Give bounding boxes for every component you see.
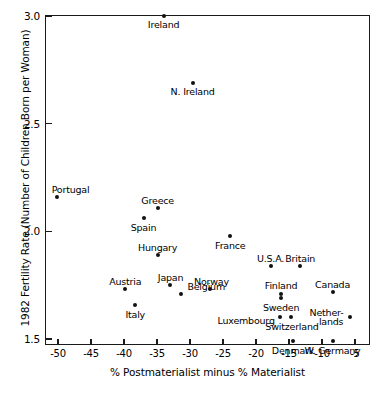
x-tick--10 <box>321 339 322 345</box>
data-point-label: Japan <box>158 273 184 283</box>
data-point-marker <box>331 290 335 294</box>
data-point-marker <box>191 81 195 85</box>
data-point-label: Ireland <box>148 20 179 30</box>
y-tick-1.5 <box>46 338 52 339</box>
data-point-marker <box>278 315 282 319</box>
x-tick-label--45: -45 <box>83 348 99 359</box>
y-axis-label: 1982 Fertility Rate (Number of Children … <box>19 13 31 343</box>
data-point-marker <box>123 287 127 291</box>
data-point-label: Portugal <box>52 185 90 195</box>
scatter-plot-figure: -50-45-40-35-30-25-20-15-10-5 1.52.02.53… <box>0 0 387 399</box>
x-tick-label--50: -50 <box>50 348 66 359</box>
data-point-marker <box>348 315 352 319</box>
data-point-marker <box>228 234 232 238</box>
data-point-marker <box>162 14 166 18</box>
data-point-marker <box>168 283 172 287</box>
x-tick--15 <box>288 339 289 345</box>
data-point-marker <box>208 287 212 291</box>
data-point-marker <box>156 253 160 257</box>
data-point-label: Britain <box>285 254 315 264</box>
plot-frame <box>45 15 370 345</box>
data-point-label: N. Ireland <box>171 87 215 97</box>
data-point-label: Norway <box>194 277 229 287</box>
data-point-marker <box>179 292 183 296</box>
y-tick-2.0 <box>46 231 52 232</box>
data-point-label: lands <box>319 317 343 327</box>
x-tick--50 <box>57 339 58 345</box>
x-axis-label: % Postmaterialist minus % Materialist <box>45 366 370 378</box>
x-tick--35 <box>156 339 157 345</box>
x-tick-label--40: -40 <box>116 348 132 359</box>
x-tick-label--35: -35 <box>149 348 165 359</box>
data-point-label: Austria <box>109 277 141 287</box>
data-point-marker <box>298 264 302 268</box>
data-point-label: Hungary <box>138 243 177 253</box>
x-tick-label--30: -30 <box>182 348 198 359</box>
y-tick-2.5 <box>46 123 52 124</box>
data-point-marker <box>142 216 146 220</box>
data-point-marker <box>291 339 295 343</box>
data-point-marker <box>289 315 293 319</box>
data-point-label: U.S.A. <box>257 254 284 264</box>
x-tick--40 <box>123 339 124 345</box>
data-point-label: Greece <box>141 196 174 206</box>
x-tick-label--25: -25 <box>215 348 231 359</box>
x-tick--20 <box>255 339 256 345</box>
data-point-label: W. Germany <box>305 346 361 356</box>
x-tick--25 <box>222 339 223 345</box>
data-point-marker <box>133 303 137 307</box>
y-tick-3.0 <box>46 15 52 16</box>
data-point-label: Finland <box>265 281 298 291</box>
data-point-marker <box>279 296 283 300</box>
x-tick--30 <box>189 339 190 345</box>
data-point-label: Italy <box>125 310 145 320</box>
data-point-label: France <box>215 241 245 251</box>
x-tick-label--20: -20 <box>248 348 264 359</box>
data-point-marker <box>55 195 59 199</box>
data-point-marker <box>331 339 335 343</box>
data-point-marker <box>269 264 273 268</box>
data-point-label: Canada <box>315 280 350 290</box>
data-point-marker <box>156 206 160 210</box>
x-tick--45 <box>90 339 91 345</box>
data-point-label: Sweden <box>263 303 299 313</box>
data-point-label: Switzerland <box>265 322 318 332</box>
x-tick--5 <box>354 339 355 345</box>
data-point-label: Spain <box>131 223 157 233</box>
